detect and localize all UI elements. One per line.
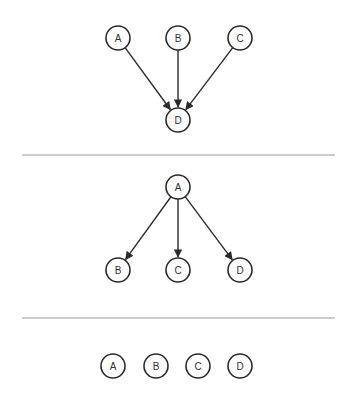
node-b: B [166, 26, 190, 50]
node-label: D [236, 361, 243, 372]
node-label: B [175, 33, 182, 44]
node-label: B [115, 265, 122, 276]
edge-c-to-d [186, 48, 233, 110]
node-c: C [166, 258, 190, 282]
node-d: D [228, 258, 252, 282]
edge-a-to-b [126, 197, 171, 260]
node-label: A [110, 361, 117, 372]
node-d: D [228, 354, 252, 378]
node-a: A [166, 175, 190, 199]
node-b: B [144, 354, 168, 378]
node-d: D [166, 108, 190, 132]
diagrams: ABCDABCDABCD [101, 26, 252, 378]
edge-a-to-d [125, 48, 170, 110]
node-label: A [175, 182, 182, 193]
node-label: D [236, 265, 243, 276]
diagram-diverging: ABCD [106, 175, 252, 282]
node-label: A [115, 33, 122, 44]
node-c: C [228, 26, 252, 50]
node-a: A [106, 26, 130, 50]
node-label: C [194, 361, 201, 372]
node-label: B [153, 361, 160, 372]
diagram-converging: ABCD [106, 26, 252, 132]
diagram-independent: ABCD [101, 354, 252, 378]
edge-a-to-d [185, 197, 232, 260]
node-label: C [174, 265, 181, 276]
node-label: C [236, 33, 243, 44]
node-a: A [101, 354, 125, 378]
node-b: B [106, 258, 130, 282]
node-c: C [186, 354, 210, 378]
diagram-canvas: ABCDABCDABCD [0, 0, 352, 395]
node-label: D [174, 115, 181, 126]
